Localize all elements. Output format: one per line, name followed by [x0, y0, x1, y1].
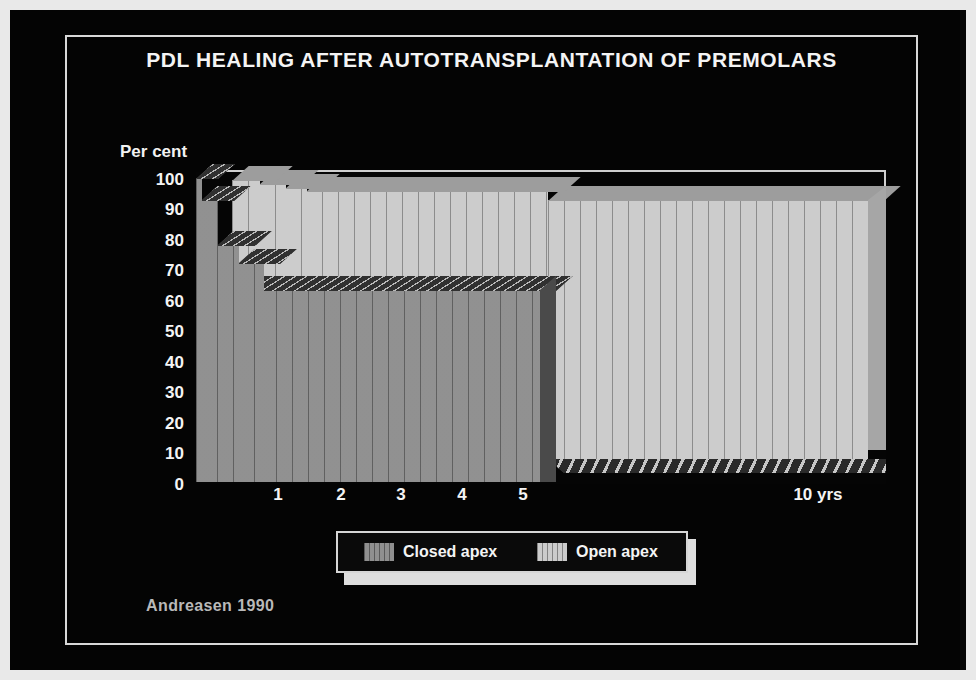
- closed-apex-ribs-72: [238, 263, 264, 482]
- x-tick-2: 2: [329, 486, 353, 503]
- y-tick-80: 80: [128, 232, 184, 249]
- open-apex-swatch: [537, 543, 567, 561]
- y-tick-0: 0: [128, 476, 184, 493]
- x-tick-4: 4: [450, 486, 474, 503]
- closed-apex-segment-78: [217, 245, 239, 482]
- closed-apex-segment-100: [196, 178, 202, 482]
- y-tick-30: 30: [128, 384, 184, 401]
- x-tick-5: 5: [511, 486, 535, 503]
- closed-apex-segment-72: [238, 263, 264, 482]
- y-tick-100: 100: [128, 171, 184, 188]
- y-tick-50: 50: [128, 323, 184, 340]
- slide-canvas: PDL HEALING AFTER AUTOTRANSPLANTATION OF…: [0, 0, 976, 680]
- y-tick-70: 70: [128, 262, 184, 279]
- x-tick-10-yrs: 10 yrs: [768, 486, 868, 503]
- closed-apex-top-63: [212, 276, 573, 291]
- attribution-text: Andreasen 1990: [146, 597, 274, 615]
- y-tick-90: 90: [128, 201, 184, 218]
- open-apex-baseline-plinth: [548, 459, 886, 473]
- closed-apex-ribs-78: [217, 245, 239, 482]
- open-apex-right-side: [868, 186, 886, 450]
- closed-apex-swatch: [364, 543, 394, 561]
- y-tick-40: 40: [128, 354, 184, 371]
- closed-apex-ribs-100: [196, 178, 202, 482]
- x-tick-1: 1: [266, 486, 290, 503]
- y-tick-60: 60: [128, 293, 184, 310]
- open-apex-ribs-94: [548, 200, 868, 464]
- x-tick-3: 3: [389, 486, 413, 503]
- open-apex-top-97: [306, 177, 581, 192]
- legend-item-open-apex[interactable]: Open apex: [537, 543, 658, 561]
- chart-legend: Closed apex Open apex: [336, 531, 688, 573]
- legend-item-closed-apex[interactable]: Closed apex: [364, 543, 497, 561]
- open-apex-segment-94: [548, 200, 868, 464]
- legend-label-closed-apex: Closed apex: [403, 543, 497, 561]
- y-tick-10: 10: [128, 445, 184, 462]
- y-tick-20: 20: [128, 415, 184, 432]
- legend-label-open-apex: Open apex: [576, 543, 658, 561]
- closed-apex-right-side: [540, 276, 556, 482]
- y-axis-label: Per cent: [120, 142, 187, 162]
- closed-apex-segment-93: [201, 200, 218, 482]
- open-apex-top-94: [548, 186, 901, 201]
- closed-apex-ribs-93: [201, 200, 218, 482]
